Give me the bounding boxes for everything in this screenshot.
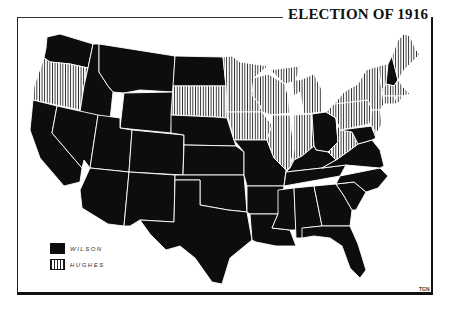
map-credit: TGN [419, 286, 430, 292]
state-fl [302, 226, 366, 278]
hughes-swatch-icon [50, 259, 65, 270]
state-sd [171, 86, 227, 118]
state-me [392, 34, 420, 80]
state-az [80, 168, 129, 226]
legend-label-hughes: HUGHES [70, 262, 105, 268]
state-wy [120, 92, 173, 133]
state-nm [124, 172, 175, 226]
state-nd [173, 56, 226, 86]
state-ks [183, 145, 244, 175]
map-title: ELECTION OF 1916 [285, 6, 431, 23]
state-co [129, 130, 184, 175]
state-ia [227, 112, 272, 140]
wilson-swatch-icon [50, 243, 65, 254]
legend-item-hughes: HUGHES [50, 259, 105, 270]
state-mt [99, 44, 175, 93]
legend-label-wilson: WILSON [70, 246, 103, 252]
legend-item-wilson: WILSON [50, 243, 103, 254]
